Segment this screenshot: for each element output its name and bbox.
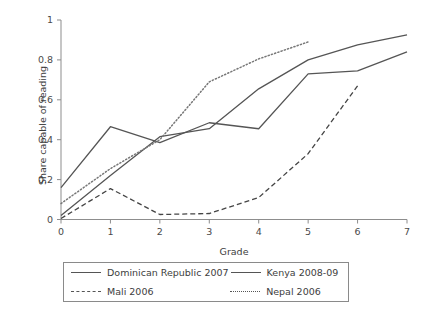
legend-label: Nepal 2006: [266, 286, 321, 297]
legend-label: Dominican Republic 2007: [107, 267, 229, 278]
x-tick-label: 5: [305, 227, 311, 237]
legend-line-solid-icon: [71, 269, 101, 277]
chart-legend: Dominican Republic 2007 Kenya 2008-09 Ma…: [63, 262, 349, 302]
x-axis-label: Grade: [61, 246, 407, 257]
series-line: [61, 52, 407, 188]
figure: 01234567 00.20.40.60.81 Grade Share capa…: [0, 0, 425, 312]
y-axis-ticks: [57, 20, 61, 220]
legend-label: Mali 2006: [107, 286, 154, 297]
x-tick-label: 4: [256, 227, 262, 237]
legend-item-mali-2006[interactable]: Mali 2006: [64, 282, 228, 301]
legend-line-dotted-icon: [230, 288, 260, 296]
series-line: [61, 86, 358, 219]
x-tick-label: 2: [157, 227, 163, 237]
y-tick-label: 1: [0, 15, 53, 25]
x-tick-label: 3: [206, 227, 212, 237]
legend-item-nepal-2006[interactable]: Nepal 2006: [228, 282, 348, 301]
x-tick-label: 0: [58, 227, 64, 237]
legend-line-solid-icon: [231, 269, 261, 277]
legend-row: Dominican Republic 2007 Kenya 2008-09: [64, 263, 348, 282]
legend-row: Mali 2006 Nepal 2006: [64, 282, 348, 301]
x-tick-label: 1: [107, 227, 113, 237]
legend-label: Kenya 2008-09: [267, 267, 339, 278]
legend-item-dominican-republic-2007[interactable]: Dominican Republic 2007: [64, 263, 229, 282]
series-lines: [61, 35, 407, 219]
legend-line-dashed-icon: [71, 288, 101, 296]
x-tick-label: 7: [404, 227, 410, 237]
legend-item-kenya-2008-09[interactable]: Kenya 2008-09: [229, 263, 348, 282]
x-axis-ticks: [61, 220, 407, 224]
y-axis-label: Share capable of reading: [37, 26, 48, 226]
x-tick-label: 6: [355, 227, 361, 237]
series-line: [61, 42, 308, 204]
